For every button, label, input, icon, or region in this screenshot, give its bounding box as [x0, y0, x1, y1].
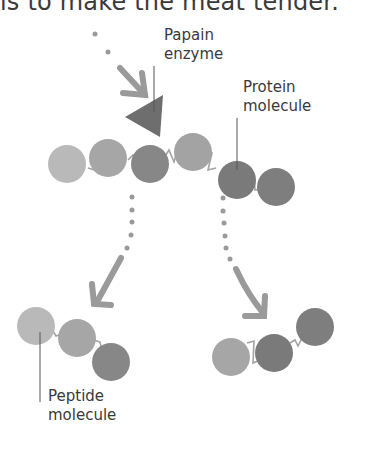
amino-acid	[48, 145, 86, 183]
amino-acid	[257, 168, 295, 206]
amino-acid	[58, 319, 96, 357]
protein-molecule-chain	[48, 133, 295, 206]
papain-enzyme-label: Papain enzyme	[164, 26, 223, 64]
peptide-molecule-right	[212, 308, 334, 376]
enzyme-approach-arrow	[93, 32, 111, 55]
amino-acid	[92, 343, 130, 381]
arrow-down-right-icon	[236, 269, 265, 316]
amino-acid	[174, 133, 212, 171]
amino-acid	[296, 308, 334, 346]
peptide-molecule-left	[17, 307, 130, 381]
protein-molecule-label: Protein molecule	[243, 78, 311, 116]
peptide-molecule-label: Peptide molecule	[48, 387, 116, 425]
amino-acid	[255, 334, 293, 372]
amino-acid	[89, 139, 127, 177]
arrow-down-right-icon	[120, 68, 145, 95]
amino-acid	[131, 145, 169, 183]
amino-acid	[17, 307, 55, 345]
arrow-down-left-icon	[92, 258, 121, 305]
papain-enzyme-triangle	[125, 95, 163, 137]
left-split-path	[125, 195, 135, 251]
amino-acid	[212, 338, 250, 376]
enzyme-diagram	[0, 0, 370, 449]
right-split-path	[221, 196, 233, 262]
